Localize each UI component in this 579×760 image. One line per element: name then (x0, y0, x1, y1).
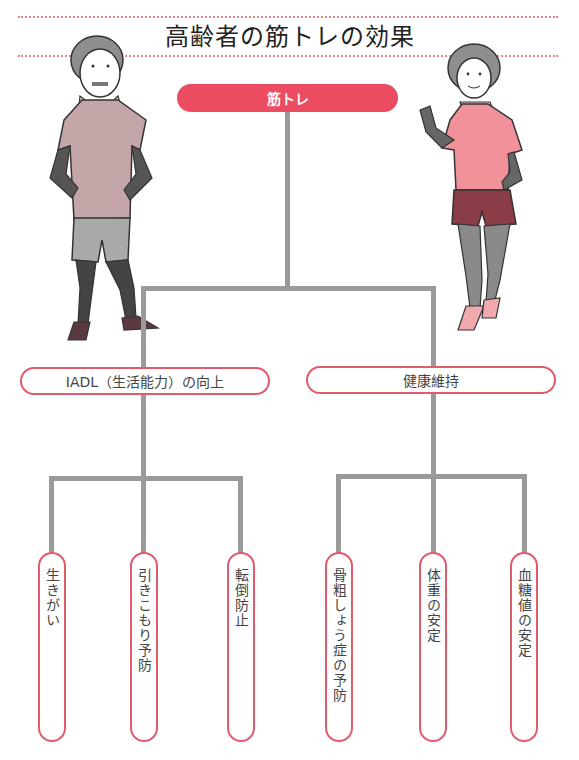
connector-branch1-horizontal (49, 476, 243, 481)
connector-leaf5-vertical (431, 474, 436, 554)
branch-node-iadl: IADL（生活能力）の向上 (20, 367, 270, 395)
leaf-node-hikikomori-prevention: 引きこもり予防 (130, 552, 158, 742)
root-node: 筋トレ (177, 84, 398, 112)
connector-leaf6-vertical (522, 474, 527, 554)
connector-leaf3-vertical (238, 476, 243, 554)
elderly-man-illustration (22, 28, 172, 348)
connector-leaf1-vertical (49, 476, 54, 554)
leaf-node-fall-prevention: 転倒防止 (227, 552, 255, 742)
connector-level1-horizontal (141, 286, 436, 291)
leaf-node-weight-stability: 体重の安定 (419, 552, 447, 742)
connector-leaf4-vertical (336, 474, 341, 554)
leaf-node-label: 転倒防止 (231, 568, 251, 740)
leaf-node-label: 血糖値の安定 (514, 568, 534, 740)
connector-leaf2-vertical (141, 476, 146, 554)
leaf-node-label: 生きがい (42, 568, 62, 740)
leaf-node-label: 体重の安定 (423, 568, 443, 740)
branch-node-label: IADL（生活能力）の向上 (66, 371, 224, 391)
leaf-node-label: 引きこもり予防 (134, 568, 154, 740)
connector-root-vertical (285, 112, 290, 290)
root-node-label: 筋トレ (267, 88, 309, 108)
leaf-node-ikigai: 生きがい (38, 552, 66, 742)
branch-node-label: 健康維持 (403, 370, 459, 390)
leaf-node-label: 骨粗しょう症の予防 (329, 568, 349, 740)
leaf-node-blood-sugar-stability: 血糖値の安定 (510, 552, 538, 742)
leaf-node-osteoporosis-prevention: 骨粗しょう症の予防 (325, 552, 353, 742)
branch-node-health: 健康維持 (306, 366, 556, 394)
title-rule-top (18, 16, 558, 18)
